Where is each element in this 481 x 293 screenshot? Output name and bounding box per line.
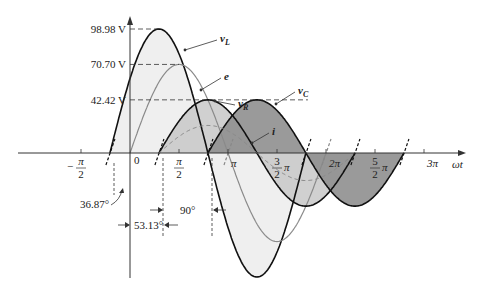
angle-label-53-13: 53.13° <box>134 219 163 231</box>
svg-text:5: 5 <box>372 155 378 167</box>
vL-label: vL <box>220 32 230 47</box>
svg-text:2: 2 <box>372 168 378 180</box>
vL-leader <box>185 40 217 50</box>
svg-text:π: π <box>382 161 388 173</box>
svg-text:π: π <box>284 161 290 173</box>
vC-leader <box>276 92 295 104</box>
arrow-right-icon <box>158 207 163 213</box>
arrow-head-icon <box>184 49 187 52</box>
tick-label-neg_half_pi: −π2 <box>67 155 86 180</box>
angle-label-90: 90° <box>180 204 195 216</box>
peak-levels: 98.98 V70.70 V42.42 V <box>91 23 308 106</box>
level-label-vR_peak: 42.42 V <box>91 94 126 106</box>
curved-arrow-head-icon <box>119 188 124 193</box>
svg-text:2: 2 <box>176 168 182 180</box>
arrow-head-icon <box>214 100 217 103</box>
svg-text:2: 2 <box>274 168 280 180</box>
tick-label-half_pi: π2 <box>174 155 184 180</box>
angle-label-36-87: 36.87° <box>80 198 109 210</box>
arrow-head-icon <box>200 89 203 92</box>
svg-text:−: − <box>67 160 73 172</box>
y-axis-arrow-icon <box>127 16 133 25</box>
tick-label-two_pi: 2π <box>329 157 341 169</box>
x-axis-label: ωt <box>452 158 464 170</box>
x-axis-arrow-icon <box>458 150 466 156</box>
arrow-head-icon <box>251 142 254 145</box>
waveform-diagram: −π2π2π32π2π52π3π 98.98 V70.70 V42.42 V v… <box>0 0 481 293</box>
level-label-e_peak: 70.70 V <box>91 58 126 70</box>
svg-text:π: π <box>176 155 182 167</box>
svg-text:2: 2 <box>78 168 84 180</box>
origin-label: 0 <box>134 154 140 166</box>
tick-label-three_pi: 3π <box>426 157 439 169</box>
svg-text:π: π <box>78 155 84 167</box>
arrow-left-icon <box>164 222 169 228</box>
vC-label: vC <box>298 84 309 99</box>
level-label-vL_peak: 98.98 V <box>91 23 126 35</box>
tick-label-pi: π <box>231 157 237 169</box>
arrow-right-icon <box>125 222 130 228</box>
arrow-left-icon <box>213 207 218 213</box>
arrow-head-icon <box>275 103 278 106</box>
e-leader <box>201 78 221 90</box>
e-label: e <box>224 70 229 82</box>
zero-crossing-dash <box>400 139 409 165</box>
svg-text:3: 3 <box>274 155 280 167</box>
